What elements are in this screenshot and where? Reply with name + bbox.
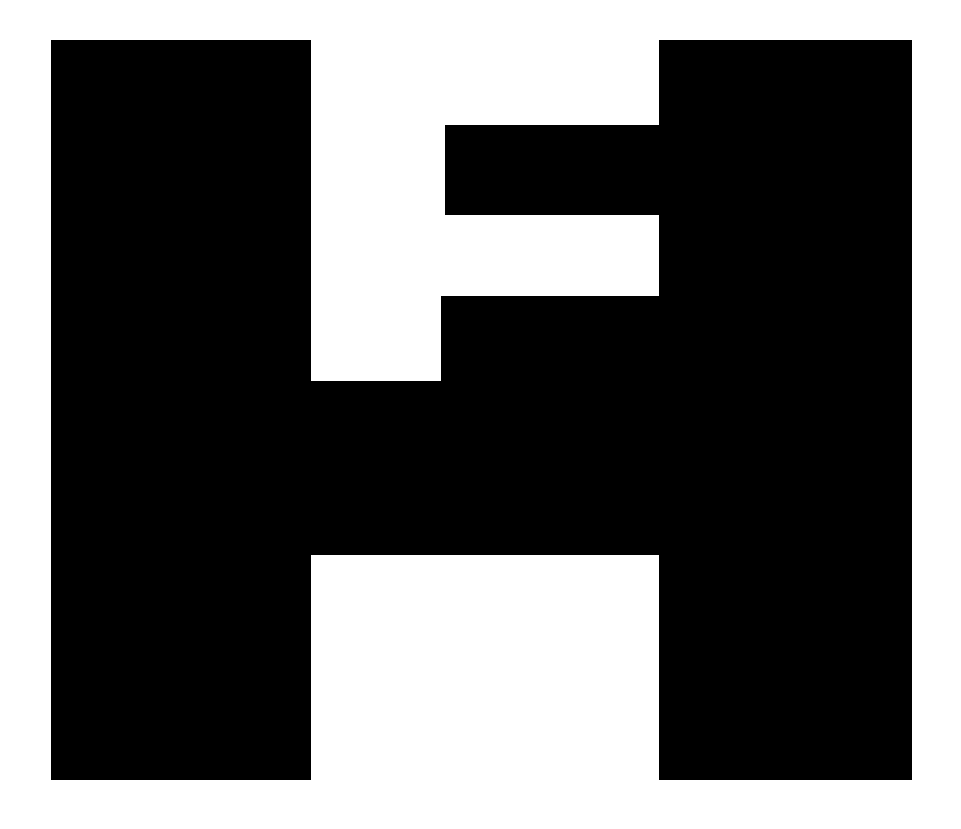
logo-right-pillar — [659, 40, 912, 780]
logo-upper-arm — [445, 125, 659, 215]
logo-middle-step — [441, 296, 659, 381]
logo-crossbar — [311, 381, 659, 555]
logo-canvas: Black geometric monogram resembling an H… — [0, 0, 961, 829]
logo-left-pillar — [51, 40, 311, 780]
logo-description: Black geometric monogram resembling an H… — [0, 0, 1, 1]
